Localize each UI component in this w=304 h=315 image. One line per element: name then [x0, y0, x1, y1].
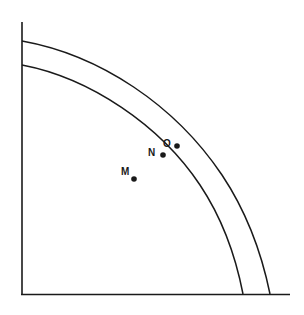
point-n-label: N [148, 147, 155, 158]
point-o-label: O [163, 138, 171, 149]
point-o: O [163, 138, 180, 149]
point-m: M [121, 166, 137, 182]
ppf-diagram: O N M [0, 0, 304, 315]
point-m-label: M [121, 166, 129, 177]
